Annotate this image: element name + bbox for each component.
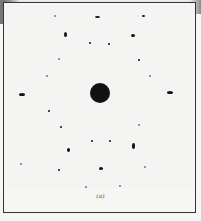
diffraction-spot: [108, 43, 110, 45]
diffraction-spot: [58, 169, 60, 171]
diffraction-spot: [19, 93, 25, 96]
central-beam-spot: [90, 83, 110, 103]
diffraction-spot: [119, 185, 121, 187]
diffraction-spot: [95, 16, 100, 18]
diffraction-spot: [109, 140, 111, 142]
diffraction-spot: [167, 91, 173, 94]
diffraction-spot: [20, 163, 22, 165]
diffraction-spot: [67, 148, 70, 152]
diffraction-spot: [54, 15, 56, 17]
diffraction-spot: [60, 126, 62, 128]
diffraction-spot: [58, 58, 60, 60]
diffraction-spot: [48, 110, 50, 112]
diffraction-spot: [99, 167, 103, 170]
diffraction-spot: [144, 166, 146, 168]
diffraction-spot: [149, 75, 151, 77]
diffraction-spot: [91, 140, 93, 142]
diffraction-spot: [142, 15, 145, 17]
figure-caption: (a): [0, 192, 201, 199]
diffraction-spot: [89, 42, 91, 44]
diffraction-spot: [138, 59, 140, 61]
diffraction-spot: [138, 124, 140, 126]
diffraction-spot: [46, 75, 48, 77]
diffraction-spot: [132, 143, 135, 149]
diffraction-spot: [131, 34, 135, 37]
diffraction-spot: [85, 186, 87, 188]
diffraction-spot: [64, 32, 67, 37]
